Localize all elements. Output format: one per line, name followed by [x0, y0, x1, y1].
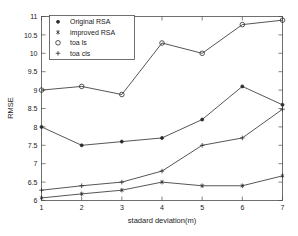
- x-axis-title: stadard deviation(m): [128, 216, 197, 225]
- y-tick-label: 10: [30, 50, 38, 57]
- y-axis-title: RMSE: [6, 97, 15, 119]
- y-tick-label: 8.5: [28, 105, 38, 112]
- data-point-marker: [80, 144, 83, 147]
- data-point-marker: [120, 140, 123, 143]
- legend-label: toa cls: [70, 50, 91, 57]
- y-tick-label: 6: [34, 197, 38, 204]
- legend-label: improved RSA: [70, 29, 115, 37]
- data-point-marker: [241, 85, 244, 88]
- y-tick-label: 9.5: [28, 68, 38, 75]
- series-toa-cls: [39, 107, 285, 193]
- series-improved-rsa: [40, 174, 284, 201]
- data-point-marker: [161, 136, 164, 139]
- data-point-marker: [40, 125, 43, 128]
- chart-figure: 66.577.588.599.51010.511 1234567 RMSE st…: [0, 0, 298, 236]
- legend-label: toa ls: [70, 39, 87, 46]
- y-tick-label: 6.5: [28, 179, 38, 186]
- plot-canvas: 66.577.588.599.51010.511 1234567 RMSE st…: [0, 0, 298, 236]
- y-tick-label: 10.5: [24, 32, 38, 39]
- legend-label: Original RSA: [70, 18, 111, 26]
- chart-legend: Original RSAimproved RSAtoa lstoa cls: [50, 16, 135, 60]
- data-point-marker: [201, 118, 204, 121]
- x-tick-label: 1: [40, 204, 44, 211]
- x-tick-label: 4: [160, 204, 164, 211]
- x-tick-label: 3: [120, 204, 124, 211]
- x-tick-label: 7: [281, 204, 285, 211]
- series-polyline: [42, 109, 283, 190]
- y-tick-label: 7: [34, 160, 38, 167]
- y-tick-label: 7.5: [28, 142, 38, 149]
- data-point-marker: [281, 103, 284, 106]
- x-tick-label: 5: [200, 204, 204, 211]
- x-tick-label: 2: [80, 204, 84, 211]
- y-tick-label: 11: [30, 13, 37, 20]
- x-tick-label: 6: [240, 204, 244, 211]
- y-tick-label: 9: [34, 87, 38, 94]
- series-original-rsa: [40, 85, 284, 147]
- y-tick-label: 8: [34, 124, 38, 131]
- series-polyline: [42, 176, 283, 198]
- legend-marker: [57, 20, 60, 23]
